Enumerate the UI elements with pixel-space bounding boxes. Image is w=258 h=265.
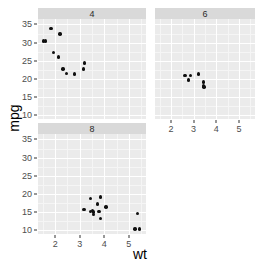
y-tick-mark (34, 230, 37, 231)
x-tick-mark (193, 120, 194, 123)
x-tick-mark (170, 120, 171, 123)
data-point (202, 85, 205, 88)
gridline-major-horizontal (155, 97, 255, 98)
data-point (99, 195, 102, 198)
data-point (57, 55, 60, 58)
data-point (187, 78, 190, 81)
data-point (136, 212, 139, 215)
facet-strip-4: 4 (38, 8, 146, 19)
gridline-major-vertical (129, 19, 130, 119)
gridline-major-horizontal (38, 176, 146, 177)
data-point (197, 72, 200, 75)
gridline-major-horizontal (38, 97, 146, 98)
gridline-major-horizontal (155, 43, 255, 44)
data-point (83, 61, 86, 64)
gridline-major-vertical (55, 134, 56, 234)
x-tick-label: 3 (186, 125, 202, 134)
gridline-major-vertical (104, 19, 105, 119)
data-point (202, 80, 205, 83)
facet-panel-4 (38, 19, 146, 119)
gridline-major-horizontal (38, 194, 146, 195)
y-tick-mark (34, 24, 37, 25)
y-tick-label: 25 (10, 56, 32, 65)
scatter-plot-figure: mpg wt 468 10152025303510152025303523452… (0, 0, 258, 265)
gridline-major-horizontal (38, 43, 146, 44)
x-tick-mark (104, 235, 105, 238)
gridline-major-horizontal (155, 24, 255, 25)
y-tick-label: 15 (10, 93, 32, 102)
x-tick-mark (55, 235, 56, 238)
facet-panel-8 (38, 134, 146, 234)
data-point (49, 27, 52, 30)
x-tick-mark (128, 235, 129, 238)
y-tick-mark (34, 97, 37, 98)
y-tick-mark (34, 194, 37, 195)
facet-strip-6: 6 (155, 8, 255, 19)
gridline-major-vertical (194, 19, 195, 119)
gridline-major-horizontal (38, 139, 146, 140)
y-tick-label: 20 (10, 75, 32, 84)
data-point (58, 32, 61, 35)
y-tick-label: 25 (10, 171, 32, 180)
x-axis-title: wt (110, 246, 170, 262)
gridline-major-vertical (239, 19, 240, 119)
y-tick-label: 30 (10, 153, 32, 162)
gridline-major-horizontal (155, 115, 255, 116)
facet-panel-6 (155, 19, 255, 119)
facet-strip-label: 6 (155, 9, 255, 18)
y-tick-label: 35 (10, 20, 32, 29)
x-tick-label: 5 (121, 240, 137, 249)
gridline-major-vertical (80, 134, 81, 234)
y-tick-mark (34, 157, 37, 158)
gridline-major-horizontal (38, 24, 146, 25)
x-tick-label: 5 (231, 125, 247, 134)
y-tick-label: 20 (10, 190, 32, 199)
gridline-major-horizontal (38, 230, 146, 231)
gridline-major-horizontal (38, 61, 146, 62)
data-point (82, 208, 85, 211)
data-point (133, 227, 136, 230)
gridline-major-horizontal (38, 79, 146, 80)
data-point (42, 39, 45, 42)
data-point (96, 202, 99, 205)
y-tick-mark (34, 60, 37, 61)
y-tick-mark (34, 212, 37, 213)
data-point (99, 217, 102, 220)
data-point (97, 210, 100, 213)
y-tick-label: 10 (10, 226, 32, 235)
data-point (61, 67, 64, 70)
y-tick-label: 35 (10, 135, 32, 144)
y-tick-mark (34, 139, 37, 140)
data-point (183, 74, 186, 77)
x-tick-mark (239, 120, 240, 123)
gridline-major-vertical (104, 134, 105, 234)
x-tick-mark (79, 235, 80, 238)
x-tick-mark (216, 120, 217, 123)
x-tick-label: 4 (96, 240, 112, 249)
y-tick-label: 15 (10, 208, 32, 217)
y-tick-mark (34, 175, 37, 176)
y-tick-mark (34, 79, 37, 80)
facet-strip-label: 4 (38, 9, 146, 18)
data-point (82, 67, 85, 70)
y-tick-label: 30 (10, 38, 32, 47)
x-tick-label: 3 (72, 240, 88, 249)
gridline-major-horizontal (155, 61, 255, 62)
gridline-major-vertical (216, 19, 217, 119)
data-point (138, 227, 141, 230)
facet-strip-label: 8 (38, 124, 146, 133)
gridline-major-horizontal (155, 79, 255, 80)
x-tick-label: 4 (208, 125, 224, 134)
x-tick-label: 2 (163, 125, 179, 134)
x-tick-label: 2 (47, 240, 63, 249)
gridline-major-vertical (55, 19, 56, 119)
y-tick-label: 10 (10, 111, 32, 120)
gridline-major-horizontal (38, 115, 146, 116)
y-tick-mark (34, 115, 37, 116)
facet-strip-8: 8 (38, 123, 146, 134)
gridline-major-vertical (129, 134, 130, 234)
data-point (189, 74, 192, 77)
gridline-major-vertical (171, 19, 172, 119)
y-tick-mark (34, 42, 37, 43)
data-point (73, 72, 76, 75)
